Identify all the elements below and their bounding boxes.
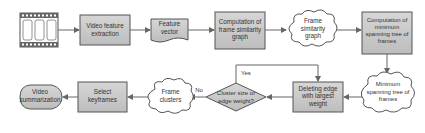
node-mst-computation: Computation of minimum spanning tree of … — [362, 12, 412, 54]
node-decision: Cluster size or edge weight? — [206, 83, 266, 111]
node-frame-similarity-graph: Frame similarity graph — [289, 10, 337, 46]
svg-text:Computation of: Computation of — [367, 17, 408, 23]
svg-text:Cluster size or: Cluster size or — [217, 90, 255, 96]
svg-text:spanning tree of: spanning tree of — [366, 89, 409, 95]
node-frame-clusters: Frame clusters — [148, 78, 193, 113]
no-label: No — [195, 87, 203, 93]
svg-text:graph: graph — [232, 33, 249, 41]
node-delete-edge: Deleting edge with largest weight — [293, 82, 343, 112]
svg-text:frames: frames — [379, 96, 397, 102]
svg-text:frames: frames — [378, 38, 396, 44]
svg-text:keyframes: keyframes — [88, 96, 117, 104]
svg-text:Feature: Feature — [159, 20, 181, 27]
svg-text:spanning tree of: spanning tree of — [365, 31, 408, 37]
svg-text:summarization: summarization — [20, 96, 61, 103]
svg-text:Frame: Frame — [304, 17, 323, 24]
yes-label: Yes — [241, 70, 251, 76]
node-select-keyframes: Select keyframes — [78, 82, 127, 112]
svg-text:graph: graph — [305, 32, 322, 40]
svg-text:minimum: minimum — [375, 24, 399, 30]
flowchart: Video feature extraction Feature vector … — [0, 0, 425, 133]
svg-text:vector: vector — [161, 28, 178, 35]
svg-text:Frame: Frame — [161, 88, 180, 95]
node-feature-vector: Feature vector — [151, 19, 188, 42]
svg-text:Video: Video — [32, 88, 48, 95]
svg-text:Minimum: Minimum — [376, 81, 400, 87]
film-strip-icon — [20, 13, 58, 47]
svg-text:clusters: clusters — [160, 96, 182, 103]
node-minimum-spanning-tree: Minimum spanning tree of frames — [361, 72, 414, 112]
node-video-summarization: Video summarization — [20, 85, 62, 109]
svg-text:Select: Select — [94, 88, 112, 95]
node-feature-extraction: Video feature extraction — [80, 15, 130, 45]
svg-text:Video feature: Video feature — [86, 22, 124, 29]
node-similarity-graph-computation: Computation of frame similarity graph — [215, 12, 265, 49]
svg-text:edge weight?: edge weight? — [218, 98, 254, 104]
svg-text:extraction: extraction — [91, 30, 119, 37]
svg-text:weight: weight — [308, 100, 327, 108]
